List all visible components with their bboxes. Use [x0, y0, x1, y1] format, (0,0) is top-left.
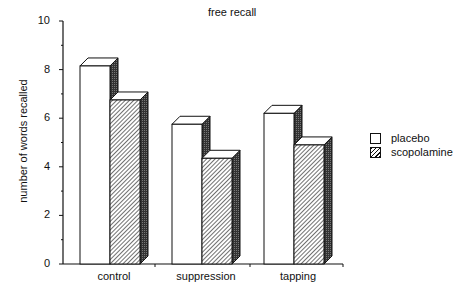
bar-tapping-scopolamine: [294, 137, 332, 264]
y-tick-label: 2: [30, 208, 50, 220]
bar-suppression-scopolamine: [202, 150, 240, 264]
y-tick-label: 0: [30, 257, 50, 269]
y-tick-label: 6: [30, 111, 50, 123]
legend-item-placebo: placebo: [370, 131, 453, 145]
legend-label: placebo: [391, 132, 430, 144]
legend: placebo scopolamine: [370, 131, 453, 159]
y-tick-label: 10: [30, 14, 50, 26]
chart-title: free recall: [208, 6, 256, 18]
placebo-swatch-icon: [370, 133, 381, 144]
x-tick-label: suppression: [156, 270, 256, 282]
x-tick-label: control: [64, 270, 164, 282]
y-tick-label: 8: [30, 63, 50, 75]
y-tick-label: 4: [30, 160, 50, 172]
legend-item-scopolamine: scopolamine: [370, 145, 453, 159]
bar-control-scopolamine: [110, 92, 148, 264]
bars: [80, 58, 332, 264]
scopolamine-swatch-icon: [370, 147, 381, 158]
x-tick-label: tapping: [248, 270, 348, 282]
legend-label: scopolamine: [391, 146, 453, 158]
y-axis-label: number of words recalled: [17, 66, 29, 216]
